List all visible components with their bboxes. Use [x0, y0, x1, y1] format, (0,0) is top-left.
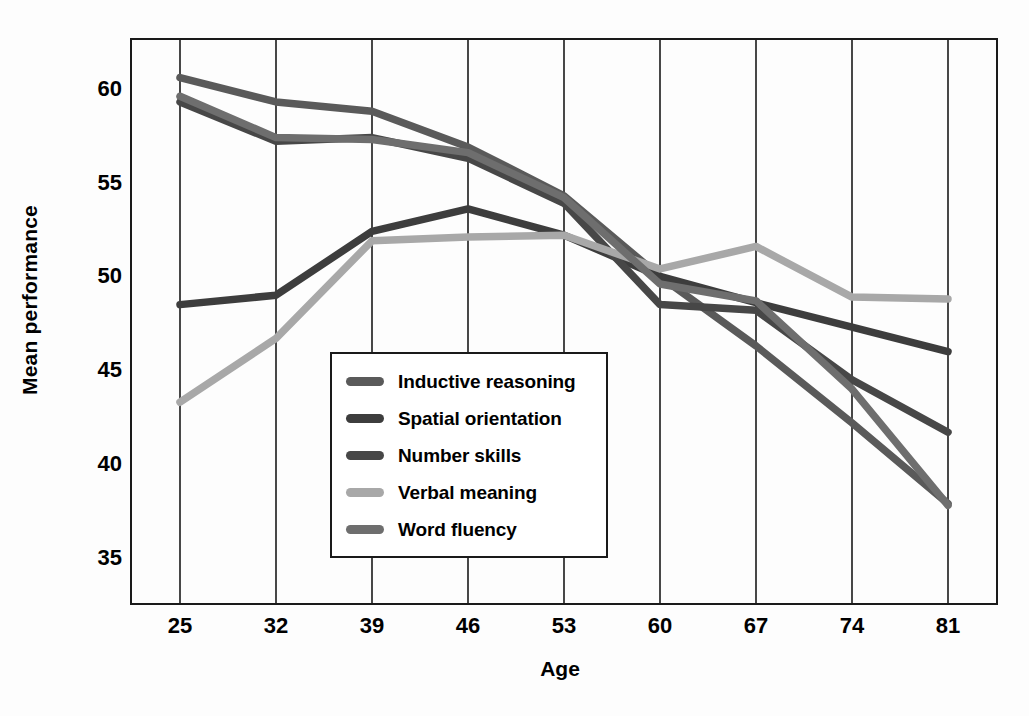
x-tick-label: 53 [529, 613, 599, 639]
x-axis-title: Age [130, 657, 990, 681]
x-tick-label: 81 [913, 613, 983, 639]
legend-item[interactable]: Inductive reasoning [332, 363, 606, 400]
legend-swatch-icon [346, 377, 384, 386]
y-tick-label: 40 [62, 451, 122, 477]
chart-figure: Mean performance 605550454035 2532394653… [0, 0, 1029, 716]
legend-item-label: Spatial orientation [398, 408, 562, 430]
x-axis-tick-labels: 253239465360677481 [0, 613, 1029, 653]
legend-item[interactable]: Number skills [332, 437, 606, 474]
y-axis-title: Mean performance [0, 0, 60, 600]
legend-item-label: Verbal meaning [398, 482, 537, 504]
x-tick-label: 25 [145, 613, 215, 639]
legend-item[interactable]: Verbal meaning [332, 474, 606, 511]
legend-swatch-icon [346, 525, 384, 534]
legend-item[interactable]: Word fluency [332, 511, 606, 548]
legend-swatch-icon [346, 488, 384, 497]
y-axis-tick-labels: 605550454035 [60, 0, 122, 716]
y-tick-label: 50 [62, 263, 122, 289]
y-tick-label: 60 [62, 76, 122, 102]
x-tick-label: 32 [241, 613, 311, 639]
legend-swatch-icon [346, 451, 384, 460]
legend-item-label: Inductive reasoning [398, 371, 576, 393]
x-tick-label: 60 [625, 613, 695, 639]
x-tick-label: 74 [817, 613, 887, 639]
x-tick-label: 67 [721, 613, 791, 639]
legend-item-label: Number skills [398, 445, 521, 467]
chart-legend: Inductive reasoningSpatial orientationNu… [330, 352, 608, 558]
y-axis-title-text: Mean performance [18, 205, 42, 395]
legend-item-label: Word fluency [398, 519, 517, 541]
y-tick-label: 45 [62, 357, 122, 383]
legend-swatch-icon [346, 414, 384, 423]
x-tick-label: 39 [337, 613, 407, 639]
legend-item[interactable]: Spatial orientation [332, 400, 606, 437]
x-tick-label: 46 [433, 613, 503, 639]
y-tick-label: 35 [62, 545, 122, 571]
y-tick-label: 55 [62, 170, 122, 196]
